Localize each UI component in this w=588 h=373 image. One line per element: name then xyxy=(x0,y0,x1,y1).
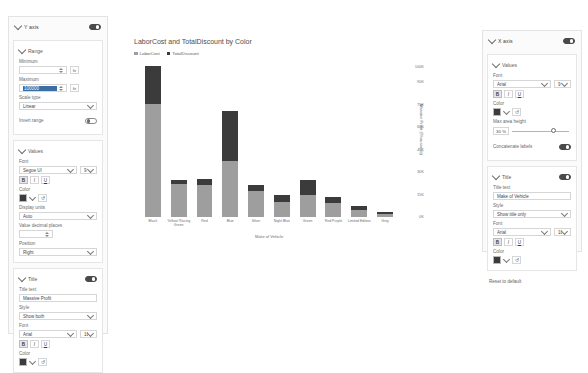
position-dropdown[interactable]: Right xyxy=(19,248,97,256)
title-bold-button[interactable]: B xyxy=(19,340,28,348)
invert-range-toggle[interactable] xyxy=(85,118,97,124)
decimal-places-input[interactable] xyxy=(19,230,53,238)
revert-color-button[interactable]: ↺ xyxy=(38,194,47,202)
x-title-underline-button[interactable]: U xyxy=(515,238,524,246)
title-font-size-input[interactable]: 10 xyxy=(80,330,97,338)
max-area-height-input[interactable]: 30 % xyxy=(493,127,509,135)
bar-slot[interactable] xyxy=(372,66,398,217)
bar-segment-laborcost[interactable] xyxy=(274,202,290,217)
x-bold-button[interactable]: B xyxy=(493,90,502,98)
slider-thumb[interactable] xyxy=(551,128,556,133)
stacked-bar[interactable] xyxy=(222,111,238,217)
stacked-bar[interactable] xyxy=(325,197,341,217)
bar-segment-laborcost[interactable] xyxy=(377,214,393,217)
x-title-bold-button[interactable]: B xyxy=(493,238,502,246)
x-axis-title-toggle[interactable] xyxy=(559,174,571,180)
chevron-down-icon[interactable] xyxy=(503,107,510,114)
chevron-down-icon[interactable] xyxy=(488,35,496,43)
chevron-down-icon[interactable] xyxy=(18,45,26,53)
minimum-fx-button[interactable]: fx xyxy=(70,66,79,74)
bar-slot[interactable] xyxy=(346,66,372,217)
bar-slot[interactable] xyxy=(192,66,218,217)
bar-slot[interactable] xyxy=(321,66,347,217)
decimal-places-stepper[interactable] xyxy=(45,232,49,237)
bar-slot[interactable] xyxy=(295,66,321,217)
stacked-bar[interactable] xyxy=(145,66,161,217)
chevron-down-icon[interactable] xyxy=(18,145,26,153)
x-title-italic-button[interactable]: I xyxy=(504,238,513,246)
legend-item-laborcost[interactable]: LaborCost xyxy=(134,51,160,56)
bar-slot[interactable] xyxy=(217,66,243,217)
legend-item-totaldiscount[interactable]: TotalDiscount xyxy=(167,51,199,56)
bar-segment-laborcost[interactable] xyxy=(171,184,187,217)
x-underline-button[interactable]: U xyxy=(515,90,524,98)
x-italic-button[interactable]: I xyxy=(504,90,513,98)
stacked-bar[interactable] xyxy=(274,195,290,217)
title-revert-color-button[interactable]: ↺ xyxy=(38,358,47,366)
scale-type-dropdown[interactable]: Linear xyxy=(19,102,97,110)
stacked-bar[interactable] xyxy=(197,179,213,217)
underline-button[interactable]: U xyxy=(41,176,50,184)
title-font-family-dropdown[interactable]: Arial xyxy=(19,330,77,338)
bar-slot[interactable] xyxy=(140,66,166,217)
style-dropdown[interactable]: Show both xyxy=(19,312,97,320)
reset-to-default-button[interactable]: Reset to default xyxy=(483,276,581,288)
title-text-input[interactable]: Massive Profit xyxy=(19,294,97,302)
x-axis-pane-header[interactable]: X axis xyxy=(483,31,581,50)
stacked-bar[interactable] xyxy=(248,185,264,217)
title-color-swatch[interactable] xyxy=(19,358,27,366)
bar-segment-totaldiscount[interactable] xyxy=(300,180,316,195)
maximum-input[interactable]: 100000 xyxy=(19,84,67,92)
stacked-bar[interactable] xyxy=(300,180,316,217)
y-axis-enable-toggle[interactable] xyxy=(89,24,101,30)
x-font-family-dropdown[interactable]: Arial xyxy=(493,80,551,88)
font-size-input[interactable]: 9 xyxy=(80,166,97,174)
chevron-down-icon[interactable] xyxy=(492,59,500,67)
x-revert-color-button[interactable]: ↺ xyxy=(512,108,521,116)
bar-segment-laborcost[interactable] xyxy=(197,185,213,217)
italic-button[interactable]: I xyxy=(30,176,39,184)
stacked-bar[interactable] xyxy=(377,212,393,217)
bar-segment-laborcost[interactable] xyxy=(248,191,264,217)
chevron-down-icon[interactable] xyxy=(14,21,22,29)
x-title-revert-color-button[interactable]: ↺ xyxy=(512,256,521,264)
bold-button[interactable]: B xyxy=(19,176,28,184)
x-title-text-input[interactable]: Make of Vehicle xyxy=(493,192,571,200)
bar-segment-laborcost[interactable] xyxy=(300,195,316,217)
minimum-input[interactable] xyxy=(19,66,67,74)
x-color-swatch[interactable] xyxy=(493,108,501,116)
bar-slot[interactable] xyxy=(269,66,295,217)
bar-segment-totaldiscount[interactable] xyxy=(222,111,238,161)
stacked-column-chart[interactable]: LaborCost and TotalDiscount by Color Lab… xyxy=(128,30,468,280)
title-underline-button[interactable]: U xyxy=(41,340,50,348)
bar-slot[interactable] xyxy=(243,66,269,217)
max-area-height-slider[interactable] xyxy=(512,131,569,132)
y-axis-pane-header[interactable]: Y axis xyxy=(9,17,107,36)
minimum-stepper[interactable] xyxy=(59,68,63,73)
bar-segment-totaldiscount[interactable] xyxy=(274,195,290,202)
concatenate-labels-toggle[interactable] xyxy=(559,144,571,150)
x-title-color-swatch[interactable] xyxy=(493,256,501,264)
chevron-down-icon[interactable] xyxy=(492,171,500,179)
x-font-size-input[interactable]: 9 xyxy=(554,80,571,88)
bar-segment-totaldiscount[interactable] xyxy=(145,66,161,104)
bar-segment-laborcost[interactable] xyxy=(222,161,238,217)
stacked-bar[interactable] xyxy=(171,180,187,217)
bar-slot[interactable] xyxy=(166,66,192,217)
maximum-fx-button[interactable]: fx xyxy=(70,84,79,92)
x-style-dropdown[interactable]: Show title only xyxy=(493,210,571,218)
stacked-bar[interactable] xyxy=(351,206,367,217)
x-title-font-size-input[interactable]: 10 xyxy=(554,228,571,236)
bar-segment-laborcost[interactable] xyxy=(145,104,161,217)
chevron-down-icon[interactable] xyxy=(29,193,36,200)
x-title-font-family-dropdown[interactable]: Arial xyxy=(493,228,551,236)
chevron-down-icon[interactable] xyxy=(29,357,36,364)
bar-segment-laborcost[interactable] xyxy=(351,210,367,217)
maximum-stepper[interactable] xyxy=(59,86,63,91)
y-axis-title-toggle[interactable] xyxy=(85,276,97,282)
x-axis-enable-toggle[interactable] xyxy=(563,38,575,44)
chevron-down-icon[interactable] xyxy=(503,255,510,262)
display-units-dropdown[interactable]: Auto xyxy=(19,212,97,220)
chevron-down-icon[interactable] xyxy=(18,273,26,281)
bar-segment-laborcost[interactable] xyxy=(325,203,341,217)
